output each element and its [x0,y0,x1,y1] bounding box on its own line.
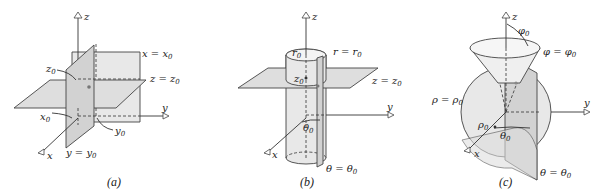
caption-c: (c) [499,175,512,189]
intersection-point [87,85,91,89]
plane-z-label: z = z0 [371,75,402,88]
surface-r-label: r = r0 [333,46,362,59]
x0-label: x0 [40,111,51,124]
z-axis-label: z [311,11,318,22]
caption-b: (b) [300,175,314,189]
plane-z-label: z = z0 [149,73,180,86]
z-axis-arrow-icon [302,12,310,18]
z-axis-label: z [83,11,90,22]
panel-c: z y x φ0 φ = φ0 ρ = ρ0 ρ0 θ0 θ = θ0 (c) [431,11,590,189]
y-axis-arrow-icon [388,112,394,118]
y-axis-label: y [161,102,168,113]
y-axis-label: y [583,97,590,108]
z-axis-label: z [511,11,518,22]
z-axis-arrow-icon [502,12,510,18]
y-axis-arrow-icon [163,113,169,119]
z-axis-arrow-icon [74,12,82,18]
y-axis-label: y [386,101,393,112]
cone-phi-label: φ = φ0 [543,46,577,59]
half-plane-theta-equals-theta0 [317,56,323,167]
panel-b: z y x r0 r = r0 z0 z = z0 θ0 θ = θ0 (b) [238,11,402,189]
phi0-label: φ0 [518,25,530,38]
half-plane-theta-label: θ = θ0 [326,163,358,176]
y-axis-arrow-icon [584,109,590,115]
coordinate-surfaces-figure: z y x x = x0 z = z0 y = y0 z0 x0 y0 (a) [0,0,594,194]
plane-y-label: y = y0 [65,147,97,160]
z0-label: z0 [45,63,56,76]
x-axis-label: x [47,150,53,161]
x-axis-label: x [474,148,480,159]
panel-a: z y x x = x0 z = z0 y = y0 z0 x0 y0 (a) [14,11,180,189]
plane-x-label: x = x0 [142,48,173,61]
x-axis-arrow-icon [264,149,270,155]
x-axis-label: x [272,149,278,160]
half-plane-theta-label: θ = θ0 [540,167,572,180]
plane-y-equals-y0 [66,45,94,148]
sphere-rho-label: ρ = ρ0 [431,94,464,107]
caption-a: (a) [107,175,121,189]
x-axis-arrow-icon [38,149,44,155]
y0-label: y0 [114,125,126,138]
